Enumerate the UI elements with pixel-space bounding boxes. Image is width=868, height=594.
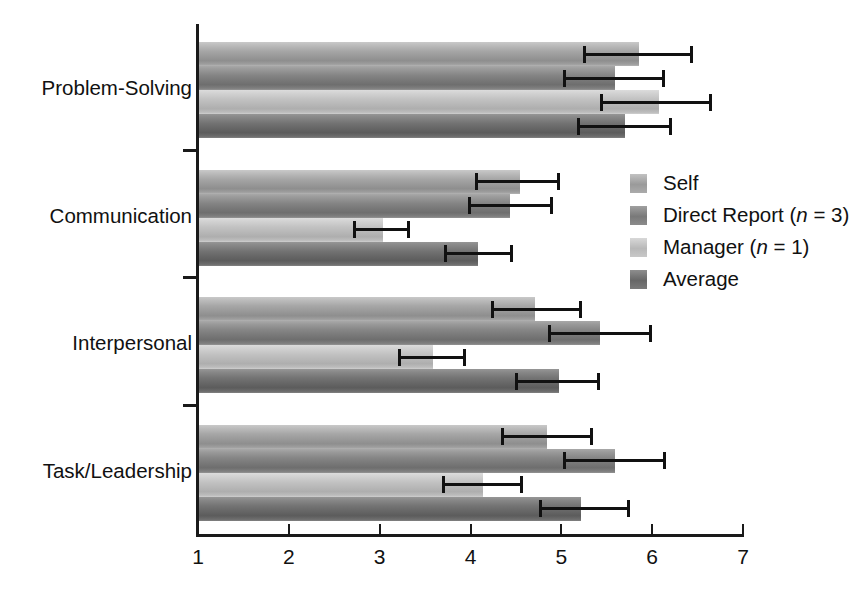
bar [199, 297, 535, 321]
error-bar-line [491, 308, 578, 311]
x-axis-tick [560, 524, 562, 535]
y-axis-category-label: Interpersonal [72, 331, 192, 355]
error-bar-line [353, 228, 407, 231]
error-bar-cap-low [398, 349, 401, 366]
y-axis-category-label: Communication [50, 204, 192, 228]
error-bar-cap-low [491, 301, 494, 318]
legend-label: Self [663, 171, 698, 195]
error-bar-cap-low [501, 428, 504, 445]
error-bar-cap-low [442, 476, 445, 493]
error-bar-cap-high [579, 301, 582, 318]
legend-item[interactable]: Self [630, 167, 849, 199]
bar [199, 170, 520, 194]
error-bar-cap-low [539, 500, 542, 517]
error-bar-line [515, 380, 597, 383]
error-bar-cap-high [627, 500, 630, 517]
bar [199, 42, 639, 66]
error-bar-cap-low [563, 452, 566, 469]
bar [199, 449, 615, 473]
error-bar-cap-low [600, 94, 603, 111]
legend-swatch [630, 206, 647, 225]
x-axis-tick-label: 6 [632, 545, 672, 569]
bar [199, 90, 659, 114]
legend-label: Manager (n = 1) [663, 235, 809, 259]
legend: SelfDirect Report (n = 3)Manager (n = 1)… [630, 167, 849, 295]
bar-chart: 1234567 Problem-SolvingCommunicationInte… [0, 0, 868, 594]
bar [199, 369, 559, 393]
error-bar-cap-low [475, 173, 478, 190]
error-bar-cap-low [444, 245, 447, 262]
x-axis-tick [742, 524, 744, 535]
error-bar-cap-low [468, 197, 471, 214]
error-bar-cap-low [515, 373, 518, 390]
error-bar-line [539, 507, 627, 510]
y-axis-group-tick [183, 149, 197, 152]
legend-swatch [630, 174, 647, 193]
error-bar-cap-high [662, 70, 665, 87]
error-bar-cap-high [407, 221, 410, 238]
bar [199, 425, 547, 449]
legend-swatch [630, 238, 647, 257]
legend-swatch [630, 270, 647, 289]
error-bar-cap-high [550, 197, 553, 214]
bar [199, 66, 615, 90]
bar [199, 242, 478, 266]
error-bar-line [398, 356, 463, 359]
error-bar-cap-high [463, 349, 466, 366]
x-axis-tick-label: 3 [360, 545, 400, 569]
error-bar-line [583, 53, 690, 56]
y-axis-group-tick [183, 404, 197, 407]
error-bar-cap-high [597, 373, 600, 390]
legend-item[interactable]: Direct Report (n = 3) [630, 199, 849, 231]
legend-label: Average [663, 267, 739, 291]
x-axis-tick [288, 524, 290, 535]
error-bar-line [563, 77, 662, 80]
error-bar-cap-high [669, 118, 672, 135]
error-bar-line [444, 252, 510, 255]
y-axis-group-tick [183, 276, 197, 279]
x-axis-tick-label: 4 [451, 545, 491, 569]
error-bar-cap-low [548, 325, 551, 342]
bar [199, 473, 483, 497]
x-axis-tick-label: 1 [178, 545, 218, 569]
error-bar-cap-high [663, 452, 666, 469]
error-bar-cap-high [557, 173, 560, 190]
error-bar-cap-high [709, 94, 712, 111]
error-bar-line [468, 204, 550, 207]
error-bar-cap-low [577, 118, 580, 135]
error-bar-cap-low [353, 221, 356, 238]
error-bar-cap-low [583, 46, 586, 63]
y-axis-category-label: Problem-Solving [42, 76, 192, 100]
error-bar-cap-high [649, 325, 652, 342]
x-axis-tick [379, 524, 381, 535]
error-bar-cap-high [520, 476, 523, 493]
error-bar-line [600, 101, 709, 104]
bar [199, 321, 600, 345]
error-bar-line [501, 435, 590, 438]
bar [199, 114, 625, 138]
error-bar-cap-low [563, 70, 566, 87]
error-bar-cap-high [590, 428, 593, 445]
plot-area: 1234567 Problem-SolvingCommunicationInte… [0, 0, 868, 594]
bar [199, 497, 581, 521]
x-axis-tick-label: 5 [541, 545, 581, 569]
error-bar-line [442, 483, 520, 486]
bar [199, 194, 510, 218]
x-axis-tick [470, 524, 472, 535]
y-axis-category-label: Task/Leadership [43, 459, 192, 483]
error-bar-cap-high [690, 46, 693, 63]
legend-label: Direct Report (n = 3) [663, 203, 849, 227]
x-axis-tick-label: 2 [269, 545, 309, 569]
error-bar-line [577, 125, 669, 128]
error-bar-cap-high [510, 245, 513, 262]
error-bar-line [563, 459, 663, 462]
legend-item[interactable]: Average [630, 263, 849, 295]
x-axis-tick [651, 524, 653, 535]
legend-item[interactable]: Manager (n = 1) [630, 231, 849, 263]
x-axis-tick-label: 7 [723, 545, 763, 569]
x-axis-tick [197, 524, 199, 535]
error-bar-line [475, 180, 557, 183]
error-bar-line [548, 332, 649, 335]
